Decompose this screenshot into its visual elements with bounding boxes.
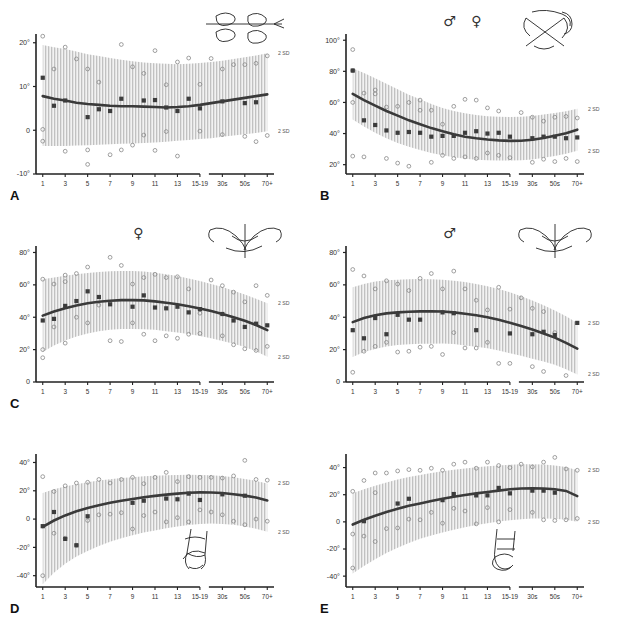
data-point-mean: [175, 305, 179, 309]
data-point-individual: [142, 332, 146, 336]
x-tick-label: 70+: [572, 388, 583, 395]
data-point-mean: [407, 130, 411, 134]
data-point-individual: [63, 45, 67, 49]
x-tick-label: 9: [131, 180, 135, 187]
data-point-individual: [396, 161, 400, 165]
data-point-individual: [407, 468, 411, 472]
data-point-mean: [575, 321, 579, 325]
data-point-mean: [384, 332, 388, 336]
y-tick-label: 0: [26, 377, 30, 386]
x-tick-label: 7: [418, 388, 422, 395]
data-point-mean: [351, 328, 355, 332]
x-tick-label: 70+: [572, 180, 583, 187]
x-tick-label: 9: [131, 388, 135, 395]
data-point-mean: [63, 304, 67, 308]
data-point-mean: [474, 493, 478, 497]
x-tick-label: 11: [462, 593, 469, 600]
x-tick-label: 9: [441, 593, 445, 600]
x-tick-label: 13: [174, 180, 182, 187]
data-point-mean: [362, 519, 366, 523]
x-tick-label: 30s: [527, 593, 537, 600]
y-tick-label: 40°: [329, 463, 340, 472]
data-point-mean: [175, 497, 179, 501]
x-tick-label: 9: [131, 593, 135, 600]
data-point-individual: [553, 455, 557, 459]
data-point-mean: [407, 318, 411, 322]
data-point-mean: [231, 318, 235, 322]
data-point-individual: [254, 284, 258, 288]
x-tick-label: 13: [484, 593, 492, 600]
data-point-individual: [153, 148, 157, 152]
data-point-individual: [542, 518, 546, 522]
x-tick-label: 5: [396, 593, 400, 600]
y-tick-label: 60°: [19, 280, 30, 289]
panel-letter: B: [320, 188, 329, 203]
x-tick-label: 3: [63, 593, 67, 600]
data-point-individual: [108, 153, 112, 157]
data-point-individual: [519, 111, 523, 115]
x-tick-label: 13: [174, 593, 182, 600]
x-tick-label: 11: [152, 388, 159, 395]
x-tick-label: 1: [41, 388, 45, 395]
band-label-upper-2sd: 2 SD: [278, 480, 290, 486]
data-point-individual: [463, 97, 467, 101]
data-point-mean: [474, 129, 478, 133]
x-tick-label: 1: [351, 180, 355, 187]
data-point-individual: [418, 468, 422, 472]
hip-rotation-diagram-icon: [512, 6, 598, 50]
x-tick-label: 13: [174, 388, 182, 395]
data-point-individual: [362, 479, 366, 483]
data-point-mean: [130, 305, 134, 309]
data-point-individual: [429, 466, 433, 470]
panel-letter: E: [320, 601, 329, 616]
data-point-individual: [497, 361, 501, 365]
female-symbol: ♀: [133, 226, 143, 240]
data-point-mean: [530, 332, 534, 336]
data-point-mean: [164, 105, 168, 109]
data-point-mean: [553, 333, 557, 337]
y-tick-label: 20°: [19, 38, 30, 47]
data-point-individual: [530, 160, 534, 164]
data-point-mean: [463, 131, 467, 135]
x-tick-label: 9: [441, 388, 445, 395]
data-point-mean: [351, 68, 355, 72]
data-point-individual: [86, 162, 90, 166]
data-point-individual: [452, 462, 456, 466]
data-point-individual: [351, 154, 355, 158]
x-tick-label: 11: [152, 593, 159, 600]
data-point-mean: [384, 128, 388, 132]
x-tick-label: 7: [418, 593, 422, 600]
y-tick-label: 20°: [19, 345, 30, 354]
data-point-individual: [131, 143, 135, 147]
data-point-mean: [373, 123, 377, 127]
data-point-individual: [41, 475, 45, 479]
data-point-mean: [485, 493, 489, 497]
x-tick-label: 50s: [550, 180, 560, 187]
female-symbol: ♀: [471, 14, 481, 28]
data-point-mean: [452, 134, 456, 138]
data-point-mean: [452, 311, 456, 315]
x-tick-label: 1: [351, 593, 355, 600]
data-point-individual: [187, 56, 191, 60]
data-point-individual: [254, 478, 258, 482]
band-label-lower-2sd: 2 SD: [278, 354, 290, 360]
data-point-individual: [351, 370, 355, 374]
data-point-individual: [63, 149, 67, 153]
x-tick-label: 7: [108, 180, 112, 187]
data-point-mean: [187, 310, 191, 314]
x-tick-label: 13: [484, 180, 492, 187]
data-point-individual: [407, 164, 411, 168]
data-point-mean: [243, 494, 247, 498]
data-point-mean: [254, 100, 258, 104]
y-tick-label: 20°: [329, 490, 340, 499]
plot-area: 40°20°0-20°-40°13579111315-1930s50s70+2 …: [310, 420, 620, 625]
band-label-lower-2sd: 2 SD: [588, 148, 600, 154]
y-tick-label: 0: [26, 514, 30, 523]
x-tick-label: 15-19: [502, 593, 519, 600]
data-point-individual: [385, 157, 389, 161]
data-point-individual: [553, 160, 557, 164]
data-point-mean: [63, 537, 67, 541]
panel-e: 40°20°0-20°-40°13579111315-1930s50s70+2 …: [310, 420, 620, 625]
data-point-individual: [530, 365, 534, 369]
data-point-individual: [396, 469, 400, 473]
